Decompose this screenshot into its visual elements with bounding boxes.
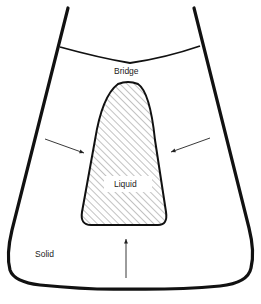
arrow-right (171, 138, 210, 152)
solidification-diagram: Bridge Liquid Solid (0, 0, 261, 304)
arrow-left (45, 139, 84, 153)
liquid-label: Liquid (114, 179, 137, 189)
bridge-line (60, 46, 200, 63)
solid-label: Solid (35, 249, 54, 259)
bridge-label: Bridge (114, 66, 139, 76)
liquid-pool (82, 82, 167, 225)
